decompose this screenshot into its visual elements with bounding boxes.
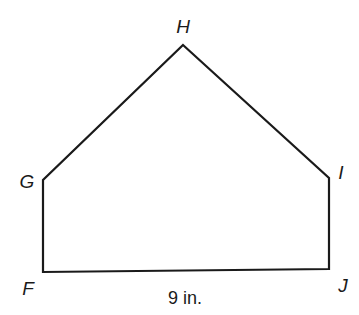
pentagon-fghij xyxy=(43,45,329,272)
vertex-label-h: H xyxy=(176,16,190,37)
vertex-label-f: F xyxy=(22,278,35,299)
vertex-label-j: J xyxy=(337,275,348,296)
pentagon-figure: H I J F G 9 in. xyxy=(0,0,359,315)
vertex-label-i: I xyxy=(338,162,344,183)
side-length-label-fj: 9 in. xyxy=(168,288,202,308)
vertex-label-g: G xyxy=(20,171,35,192)
diagram-canvas: H I J F G 9 in. xyxy=(0,0,359,315)
